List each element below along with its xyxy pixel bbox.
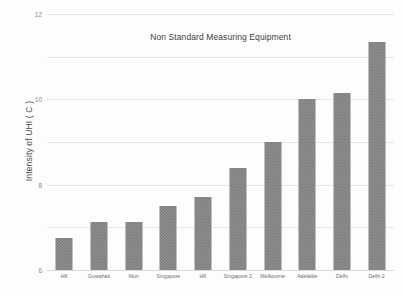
bar[interactable] xyxy=(160,206,177,270)
x-axis-tick-label: Murr xyxy=(128,273,139,279)
bar-slot xyxy=(82,14,117,270)
bar[interactable] xyxy=(299,99,316,270)
bar[interactable] xyxy=(333,93,350,270)
bar[interactable] xyxy=(91,222,108,270)
bar[interactable] xyxy=(56,238,73,270)
bar-slot xyxy=(290,14,325,270)
bar[interactable] xyxy=(125,222,142,270)
bar[interactable] xyxy=(195,197,212,270)
bar-slot xyxy=(186,14,221,270)
bar-slot xyxy=(151,14,186,270)
y-axis-tick-label: 10 xyxy=(35,96,42,103)
bars-series xyxy=(47,14,394,270)
x-axis-tick-label: Guwahati xyxy=(88,273,110,279)
chart-title: Non Standard Measuring Equipment xyxy=(47,32,394,42)
x-axis-tick-label: Singapore 2 xyxy=(224,273,252,279)
bar-slot xyxy=(359,14,394,270)
y-axis-tick-label: 6 xyxy=(38,267,42,274)
bar[interactable] xyxy=(368,42,385,270)
x-axis-tick-label: Delhi xyxy=(336,273,348,279)
plot-area: 024681012 Non Standard Measuring Equipme… xyxy=(47,14,394,270)
x-axis-tick-labels: HKGuwahatiMurrSingaporeHKSingapore 2Melb… xyxy=(47,273,394,289)
x-axis-tick-label: HK xyxy=(200,273,207,279)
bar-slot xyxy=(255,14,290,270)
x-axis-tick-label: HK xyxy=(61,273,68,279)
x-axis-tick-label: Adelaide xyxy=(297,273,317,279)
bar-slot xyxy=(116,14,151,270)
x-axis-tick-label: Singapore xyxy=(157,273,181,279)
bar-chart: Intensity of UHI ( C ) 024681012 Non Sta… xyxy=(0,0,403,296)
y-axis-title: Intensity of UHI ( C ) xyxy=(24,51,34,231)
bar-slot xyxy=(47,14,82,270)
y-axis-tick-label: 12 xyxy=(35,11,42,18)
bar-slot xyxy=(221,14,256,270)
x-axis-tick-label: Melbourne xyxy=(260,273,285,279)
y-axis-tick-label: 8 xyxy=(38,181,42,188)
x-axis-tick-label: Delhi 2 xyxy=(369,273,385,279)
gridline: 0 xyxy=(47,270,394,271)
bar[interactable] xyxy=(264,142,281,270)
bar[interactable] xyxy=(229,168,246,270)
bar-slot xyxy=(325,14,360,270)
